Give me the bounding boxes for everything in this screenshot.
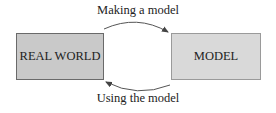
using-model-arrow-icon xyxy=(106,82,170,91)
using-the-model-label: Using the model xyxy=(0,91,276,106)
making-model-arrow-icon xyxy=(104,22,168,32)
